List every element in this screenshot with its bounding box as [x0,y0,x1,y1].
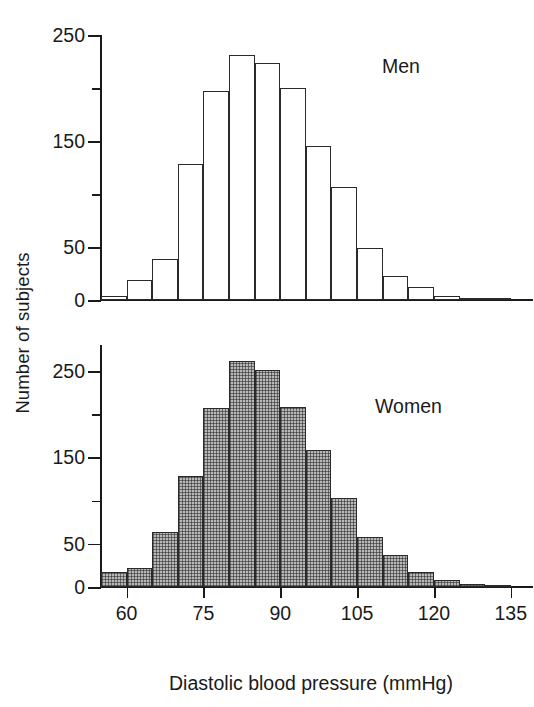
x-tick-label: 60 [116,602,138,625]
bar [331,498,357,587]
bar [203,408,229,587]
bar [152,532,178,587]
bar [383,555,409,587]
bar [101,296,127,300]
bar [460,298,486,300]
bar [306,450,332,587]
bar [152,259,178,300]
panel-men: 050150250 Men [0,0,534,330]
y-tick-label: 0 [25,576,85,599]
y-tick-label: 250 [25,359,85,382]
y-tick-minor [92,194,101,196]
bar [383,276,409,300]
series-label-men: Men [382,55,420,78]
y-tick-minor [92,88,101,90]
bar [203,91,229,300]
bar [280,407,306,587]
bar [101,572,127,587]
y-tick-major [88,544,101,546]
y-tick-major [88,300,101,302]
y-tick-major [88,35,101,37]
bar [331,187,357,300]
x-tick-label: 75 [193,602,215,625]
bar [357,537,383,587]
y-tick-minor [92,501,101,503]
x-tick [280,587,282,598]
x-tick-label: 120 [418,602,451,625]
figure-histogram-pair: Number of subjects 050150250 Men 0501502… [0,0,534,707]
x-tick-label: 90 [269,602,291,625]
bar [178,476,204,587]
y-tick-major [88,141,101,143]
bar [357,248,383,300]
x-tick [127,587,129,598]
bar [408,572,434,587]
y-tick-label: 50 [25,236,85,259]
bar [178,164,204,300]
plot-area-women: 050150250 607590105120135 [101,345,521,587]
y-tick-label: 150 [25,446,85,469]
y-tick-major [88,247,101,249]
bar [229,361,255,587]
bar [229,55,255,300]
y-tick-minor [92,414,101,416]
y-tick-major [88,371,101,373]
bars-women [101,345,521,587]
bar [434,580,460,587]
bars-men [101,35,521,300]
bar [255,370,281,587]
x-tick [203,587,205,598]
bar [485,298,511,300]
bar [127,568,153,587]
series-label-women: Women [375,395,442,418]
bar [306,146,332,300]
bar [460,584,486,587]
bar [434,296,460,300]
plot-area-men: 050150250 [101,35,521,300]
y-tick-major [88,587,101,589]
bar [408,287,434,300]
x-tick [434,587,436,598]
y-tick-label: 50 [25,532,85,555]
x-tick [357,587,359,598]
y-tick-label: 0 [25,289,85,312]
y-tick-label: 150 [25,130,85,153]
y-tick-major [88,457,101,459]
x-tick-label: 105 [341,602,374,625]
bar [280,88,306,300]
bar [255,63,281,300]
bar [127,280,153,300]
x-tick-label: 135 [494,602,527,625]
x-tick [511,587,513,598]
x-axis-title: Diastolic blood pressure (mmHg) [101,672,521,695]
bar [485,585,511,587]
y-tick-label: 250 [25,24,85,47]
